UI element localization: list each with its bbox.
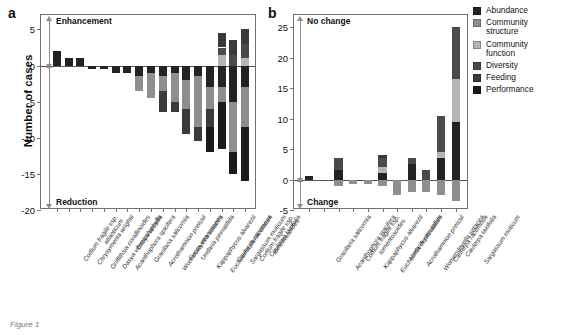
bar-group: [100, 15, 108, 208]
bar-segment: [171, 102, 179, 113]
y-axis-tick-label: -5: [280, 205, 288, 216]
legend-label: Community structure: [486, 18, 559, 36]
y-axis-tick: [290, 149, 294, 150]
x-axis-tick: [245, 208, 246, 212]
bar-segment: [182, 80, 190, 109]
figure-container: a Number of cases 50-5-10-15-20Enhanceme…: [0, 0, 561, 335]
bar-segment: [241, 58, 249, 65]
bar-segment: [452, 27, 460, 79]
y-axis-tick: [37, 138, 41, 139]
bar-group: [334, 15, 342, 208]
bar-group: [229, 15, 237, 208]
x-axis-tick: [383, 208, 384, 212]
bar-segment: [229, 55, 237, 66]
bar-segment: [147, 73, 155, 98]
bar-segment: [218, 33, 226, 47]
bar-segment: [123, 66, 131, 73]
x-axis-tick: [368, 208, 369, 212]
legend-label: Diversity: [486, 61, 518, 70]
x-axis-tick: [324, 208, 325, 212]
bar-segment: [241, 44, 249, 58]
x-axis-tick: [104, 208, 105, 212]
y-axis-tick: [290, 27, 294, 28]
x-axis-tick: [127, 208, 128, 212]
bar-segment: [334, 170, 342, 179]
bar-group: [76, 15, 84, 208]
y-axis-tick-label: 5: [283, 144, 288, 155]
legend-label: Performance: [486, 85, 534, 94]
x-axis-tick: [198, 208, 199, 212]
bar-segment: [241, 66, 249, 88]
bar-segment: [206, 109, 214, 127]
top-annotation-label: No change: [307, 16, 350, 26]
bar-segment: [194, 127, 202, 141]
bar-group: [88, 15, 96, 208]
legend-swatch-icon: [473, 7, 481, 15]
bar-group: [241, 15, 249, 208]
bar-segment: [159, 91, 167, 113]
bar-segment: [241, 127, 249, 181]
y-axis-tick-label: 0: [283, 174, 288, 185]
y-axis-tick: [37, 174, 41, 175]
bar-segment: [135, 66, 143, 77]
y-axis-tick-label: 15: [277, 83, 288, 94]
up-arrow-icon: [300, 21, 301, 178]
x-axis-tick: [456, 208, 457, 212]
bar-segment: [349, 180, 357, 184]
x-axis-tick: [186, 208, 187, 212]
bar-group: [135, 15, 143, 208]
bar-segment: [408, 158, 416, 164]
legend-swatch-icon: [473, 62, 481, 70]
bar-segment: [194, 76, 202, 127]
legend-swatch-icon: [473, 74, 481, 82]
bar-group: [171, 15, 179, 208]
bar-segment: [437, 152, 445, 158]
bar-segment: [171, 66, 179, 73]
legend-item: Community structure: [473, 18, 559, 36]
y-axis-tick-label: -10: [21, 132, 35, 143]
bar-segment: [229, 102, 237, 153]
y-axis-tick: [290, 119, 294, 120]
y-axis-tick: [37, 102, 41, 103]
bar-segment: [452, 79, 460, 122]
legend-swatch-icon: [473, 19, 481, 27]
x-axis-tick: [441, 208, 442, 212]
y-axis-tick: [37, 29, 41, 30]
bar-segment: [452, 180, 460, 201]
bar-group: [364, 15, 372, 208]
y-axis-tick-label: 0: [30, 60, 35, 71]
legend-item: Diversity: [473, 61, 559, 70]
bar-group: [194, 15, 202, 208]
bar-segment: [159, 76, 167, 90]
legend-item: Feeding: [473, 73, 559, 82]
legend-item: Performance: [473, 85, 559, 94]
bar-group: [159, 15, 167, 208]
x-axis-tick: [222, 208, 223, 212]
bar-segment: [53, 51, 61, 65]
x-axis-tick: [116, 208, 117, 212]
bar-segment: [378, 180, 386, 186]
bar-segment: [452, 122, 460, 180]
bar-segment: [182, 66, 190, 80]
bar-segment: [422, 180, 430, 192]
figure-caption: Figure 1: [10, 320, 39, 329]
bar-segment: [171, 73, 179, 102]
panel-b-letter: b: [268, 5, 277, 21]
bar-segment: [393, 180, 401, 195]
y-axis-tick-label: 10: [277, 113, 288, 124]
bar-segment: [437, 180, 445, 195]
bar-segment: [378, 167, 386, 173]
x-axis-tick: [175, 208, 176, 212]
bar-segment: [378, 155, 386, 158]
legend-swatch-icon: [473, 86, 481, 94]
x-axis-tick: [412, 208, 413, 212]
panel-b-plot-area: 2520151050-5No changeChange: [293, 14, 468, 209]
bar-segment: [194, 66, 202, 77]
y-axis-tick-label: -20: [21, 205, 35, 216]
bar-group: [53, 15, 61, 208]
bar-segment: [437, 116, 445, 153]
x-axis-tick: [151, 208, 152, 212]
bar-segment: [422, 170, 430, 179]
x-axis-tick: [80, 208, 81, 212]
bar-group: [206, 15, 214, 208]
